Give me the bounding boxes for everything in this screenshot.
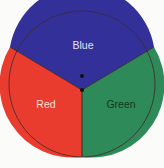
label-red: Red: [36, 98, 55, 110]
spinner-diagram: Blue Red Green: [0, 0, 164, 168]
label-green: Green: [106, 98, 135, 110]
label-blue: Blue: [72, 39, 93, 51]
center-dot: [80, 88, 84, 92]
pivot-dot: [80, 74, 84, 78]
